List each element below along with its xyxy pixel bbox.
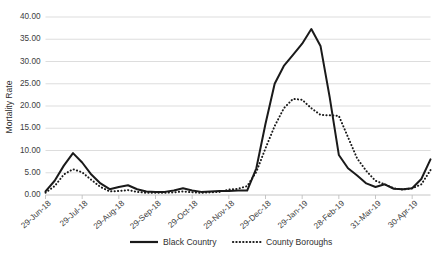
x-axis-tick-label: 29-Jul-18 — [58, 199, 90, 229]
y-axis-tick-labels: 0.005.0010.0015.0020.0025.0030.0035.0040… — [20, 12, 41, 199]
x-axis-tick-label: 29-Nov-18 — [202, 199, 237, 232]
x-axis-tick-label: 29-Oct-18 — [166, 199, 199, 230]
y-axis-tick-label: 40.00 — [20, 12, 41, 21]
data-series-lines — [46, 29, 431, 193]
series-line-county-boroughs — [46, 99, 431, 193]
gridlines — [46, 17, 431, 195]
y-axis-tick-label: 35.00 — [20, 34, 41, 43]
chart-canvas: 0.005.0010.0015.0020.0025.0030.0035.0040… — [0, 0, 436, 257]
x-axis-tick-label: 28-Feb-19 — [312, 199, 346, 231]
legend-label-black-country: Black Country — [163, 237, 217, 247]
y-axis-tick-label: 10.00 — [20, 146, 41, 155]
x-axis-tick-label: 29-Dec-18 — [238, 199, 273, 232]
x-axis-tick-label: 29-Sep-18 — [128, 199, 163, 232]
x-axis-tick-label: 29-Aug-18 — [92, 199, 127, 232]
y-axis-title: Mortality Rate — [4, 80, 14, 133]
x-axis-tick-label: 31-Mar-19 — [349, 199, 383, 231]
x-axis-tick-label: 29-Jan-19 — [276, 199, 310, 231]
mortality-rate-line-chart: 0.005.0010.0015.0020.0025.0030.0035.0040… — [0, 0, 436, 257]
y-axis-tick-label: 5.00 — [25, 168, 41, 177]
y-axis-tick-label: 15.00 — [20, 123, 41, 132]
series-line-black-country — [46, 29, 431, 192]
y-axis-tick-label: 20.00 — [20, 101, 41, 110]
legend-label-county-boroughs: County Boroughs — [266, 237, 332, 247]
x-axis-tick-labels: 29-Jun-1829-Jul-1829-Aug-1829-Sep-1829-O… — [19, 195, 419, 231]
x-axis-tick-label: 29-Jun-18 — [19, 199, 53, 231]
y-axis-tick-label: 25.00 — [20, 79, 41, 88]
y-axis-tick-label: 30.00 — [20, 57, 41, 66]
x-axis-tick-label: 30-Apr-19 — [386, 199, 419, 230]
y-axis-tick-label: 0.00 — [25, 190, 41, 199]
chart-legend: Black CountryCounty Boroughs — [130, 237, 332, 247]
